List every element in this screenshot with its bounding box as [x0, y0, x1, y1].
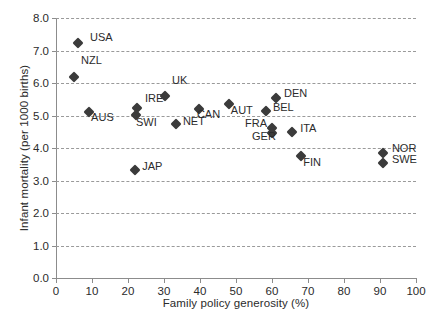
x-tick-label: 100 [406, 285, 425, 297]
y-tick [52, 18, 56, 19]
y-axis-title: Infant mortality (per 1000 births) [18, 38, 30, 258]
x-tick [344, 278, 345, 283]
data-point-net[interactable] [170, 119, 181, 130]
data-point-label-nzl: NZL [81, 54, 102, 66]
gridline [56, 181, 416, 182]
x-tick-label: 80 [338, 285, 351, 297]
gridline [56, 18, 416, 19]
data-point-label-aut: AUT [231, 104, 253, 116]
x-tick [92, 278, 93, 283]
x-axis-title: Family policy generosity (%) [56, 297, 416, 309]
x-tick [200, 278, 201, 283]
x-tick-label: 10 [86, 285, 99, 297]
y-tick-label: 8.0 [33, 12, 49, 24]
data-point-label-fin: FIN [303, 156, 321, 168]
data-point-label-ger: GER [252, 130, 276, 142]
y-tick-label: 3.0 [33, 175, 49, 187]
data-point-label-den: DEN [284, 87, 307, 99]
y-tick-label: 6.0 [33, 77, 49, 89]
data-point-ita[interactable] [286, 127, 297, 138]
data-point-label-usa: USA [90, 31, 113, 43]
gridline [56, 51, 416, 52]
data-point-usa[interactable] [72, 37, 83, 48]
data-point-jap[interactable] [130, 164, 141, 175]
x-tick-label: 70 [302, 285, 315, 297]
data-point-swe[interactable] [377, 157, 388, 168]
x-tick [56, 278, 57, 283]
data-point-label-jap: JAP [142, 160, 162, 172]
y-tick [52, 246, 56, 247]
data-point-label-aus: AUS [91, 111, 114, 123]
x-tick-label: 50 [230, 285, 243, 297]
x-tick-label: 30 [158, 285, 171, 297]
x-tick-label: 0 [53, 285, 59, 297]
y-tick [52, 51, 56, 52]
x-tick [236, 278, 237, 283]
y-tick-label: 0.0 [33, 272, 49, 284]
x-tick [164, 278, 165, 283]
plot-area: 0.01.02.03.04.05.06.07.08.0 010203040506… [56, 18, 416, 278]
gridline [56, 148, 416, 149]
y-tick-label: 5.0 [33, 110, 49, 122]
data-point-label-uk: UK [172, 74, 187, 86]
data-point-label-can: CAN [197, 108, 220, 120]
y-tick [52, 181, 56, 182]
x-tick-label: 40 [194, 285, 207, 297]
data-point-nzl[interactable] [68, 71, 79, 82]
y-tick-label: 7.0 [33, 45, 49, 57]
y-tick [52, 116, 56, 117]
x-tick [380, 278, 381, 283]
x-tick-label: 90 [374, 285, 387, 297]
data-point-label-swi: SWI [136, 116, 157, 128]
data-point-label-fra: FRA [245, 117, 267, 129]
x-tick [128, 278, 129, 283]
data-point-label-swe: SWE [392, 153, 417, 165]
x-tick [272, 278, 273, 283]
x-tick [308, 278, 309, 283]
gridline [56, 246, 416, 247]
data-point-label-ita: ITA [300, 122, 316, 134]
x-tick-label: 20 [122, 285, 135, 297]
y-tick-label: 1.0 [33, 240, 49, 252]
y-tick-label: 4.0 [33, 142, 49, 154]
gridline [56, 83, 416, 84]
y-tick [52, 148, 56, 149]
y-tick [52, 213, 56, 214]
gridline [56, 213, 416, 214]
x-tick-label: 60 [266, 285, 279, 297]
x-tick [416, 278, 417, 283]
y-tick-label: 2.0 [33, 207, 49, 219]
y-tick [52, 83, 56, 84]
scatter-chart: Infant mortality (per 1000 births) Famil… [0, 0, 429, 322]
